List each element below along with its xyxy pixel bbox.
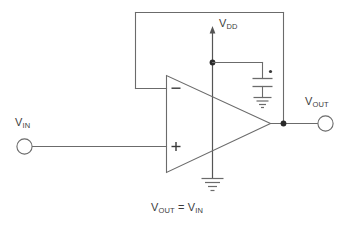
capacitor-polarity-marker-icon [269,70,272,73]
equation-operator: = [175,201,188,213]
input-terminal[interactable] [17,139,32,154]
vdd-arrow-icon [210,26,216,34]
noninverting-input-sign-vertical [175,142,176,151]
equation-left-subscript: OUT [159,206,175,215]
inverting-input-sign [172,88,181,89]
circuit-schematic-svg [0,0,354,230]
caption-equation: VOUT = VIN [151,202,203,213]
output-net [271,116,334,131]
equation-right-subscript: IN [195,206,203,215]
vdd-label: VDD [219,18,238,29]
vout-label-base: V [305,95,313,107]
capacitor-ground [254,98,272,108]
vout-label-subscript: OUT [313,100,329,109]
op-amp[interactable] [167,76,271,173]
output-junction-dot [281,121,287,127]
output-terminal[interactable] [318,116,333,131]
vin-label: VIN [15,117,30,128]
input-net [17,139,167,154]
supply-rail [210,26,263,178]
vin-label-subscript: IN [23,121,31,130]
circuit-diagram: VDD VIN VOUT VOUT = VIN [0,0,354,230]
figure-caption: VOUT = VIN [0,202,354,213]
opamp-triangle-body[interactable] [167,76,271,173]
vout-label: VOUT [305,96,329,107]
vin-label-base: V [15,116,23,128]
vdd-label-base: V [219,17,227,29]
feedback-wire [136,13,284,124]
equation-left-base: V [151,201,159,213]
vdd-label-subscript: DD [227,22,238,31]
supply-ground [202,179,224,191]
